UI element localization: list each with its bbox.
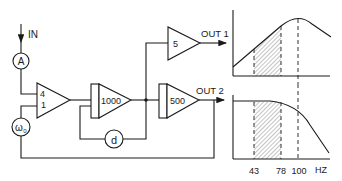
unit-hz: HZ (315, 165, 327, 175)
summing-gain-bottom: 1 (41, 100, 46, 110)
shaded-band (254, 26, 281, 76)
node-d: d (105, 130, 123, 148)
wire (123, 100, 146, 139)
amplifier-1000: 1000 (91, 84, 131, 118)
amplifier-500: 500 (159, 84, 199, 118)
out1-label: OUT 1 (201, 28, 229, 39)
node-a-label: A (18, 56, 25, 67)
tick-100: 100 (291, 166, 306, 176)
amp1000-gain: 1000 (101, 96, 121, 106)
graph-out1 (233, 10, 331, 84)
wire (21, 69, 37, 94)
tick-43: 43 (249, 166, 259, 176)
summing-gain-top: 4 (40, 89, 45, 99)
node-a: A (13, 53, 29, 69)
node-omega-label: ω (15, 122, 23, 133)
input-label: IN (28, 29, 38, 40)
node-d-label: d (111, 134, 117, 146)
shaded-band (254, 102, 281, 159)
wire (21, 106, 37, 118)
amp5-gain: 5 (173, 39, 178, 49)
summing-amplifier: 4 1 (37, 83, 70, 118)
graph-out2 (233, 84, 330, 159)
signal-flow-diagram: IN A 4 1 ω 0 1000 d 5 OUT (0, 0, 342, 181)
tick-78: 78 (276, 166, 286, 176)
amplifier-5: 5 (168, 27, 200, 60)
amp500-gain: 500 (170, 96, 185, 106)
response-curve (233, 18, 331, 67)
out2-label: OUT 2 (196, 85, 224, 96)
node-omega: ω 0 (12, 118, 30, 136)
